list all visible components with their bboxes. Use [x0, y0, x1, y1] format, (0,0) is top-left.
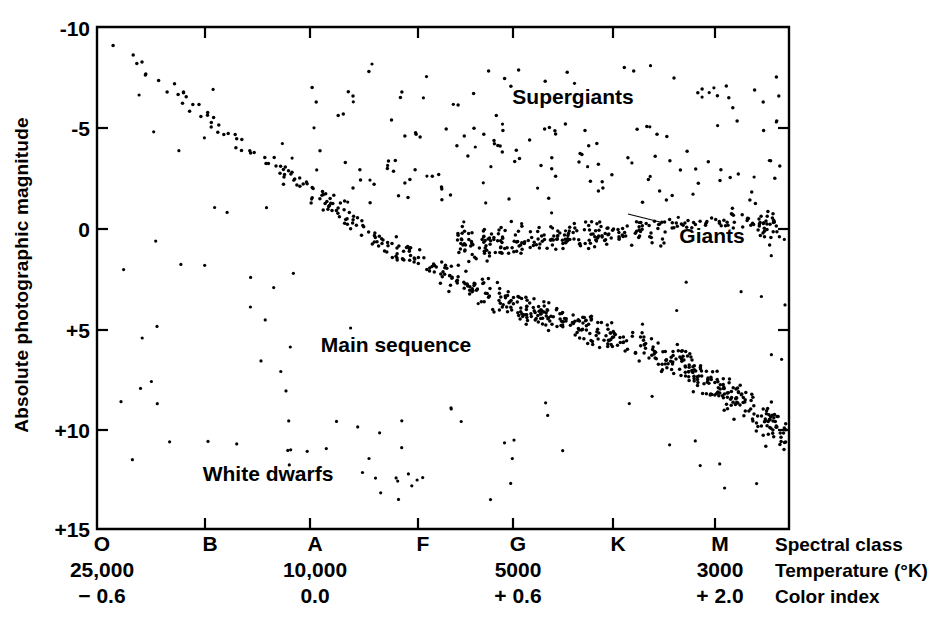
star-point [466, 154, 470, 158]
star-point [608, 331, 612, 335]
star-point [150, 380, 153, 383]
star-point [519, 306, 523, 310]
star-point [706, 376, 710, 380]
star-point [518, 317, 522, 321]
star-point [520, 297, 524, 301]
star-point [532, 297, 536, 301]
star-point [392, 170, 396, 174]
star-point [408, 258, 412, 262]
star-point [737, 390, 741, 394]
star-point [507, 197, 511, 201]
y-tick-label--10: -10 [60, 17, 90, 40]
star-point [485, 248, 489, 252]
star-point [641, 224, 645, 228]
star-point [685, 149, 689, 153]
star-point [578, 319, 582, 323]
right-axis-ticks [778, 128, 789, 430]
star-point [692, 374, 696, 378]
star-point [235, 442, 238, 445]
x-row-1-value-0: 25,000 [70, 558, 134, 581]
star-point [726, 407, 730, 411]
star-point [705, 392, 709, 396]
star-point [456, 275, 460, 279]
star-point [679, 168, 683, 172]
star-point [561, 449, 564, 452]
star-point [483, 252, 487, 256]
star-point [715, 369, 719, 373]
star-point [282, 168, 286, 172]
x-row-0-value-2: A [307, 532, 322, 555]
star-point [540, 234, 544, 238]
star-point [335, 420, 338, 423]
star-point [610, 173, 614, 177]
star-point [397, 244, 401, 248]
star-point [421, 476, 424, 479]
star-point [714, 218, 718, 222]
star-point [462, 220, 465, 223]
star-point [573, 222, 577, 226]
star-point [602, 339, 606, 343]
giants-leader-line [628, 214, 660, 222]
star-point [403, 181, 407, 185]
star-point [507, 251, 511, 255]
star-point [693, 364, 697, 368]
star-point [712, 86, 715, 89]
star-point [722, 377, 726, 381]
star-point [649, 64, 652, 67]
star-point [471, 243, 475, 247]
x-axis-ticks [205, 27, 715, 529]
star-point [782, 431, 786, 435]
star-point [751, 417, 755, 421]
star-point [684, 370, 688, 374]
star-point [772, 221, 776, 225]
star-point [519, 251, 523, 255]
star-point [433, 264, 437, 268]
star-point [744, 391, 748, 395]
star-point [539, 317, 543, 321]
star-point [173, 82, 177, 86]
star-point [373, 231, 377, 235]
star-point [587, 144, 591, 148]
star-point [272, 156, 276, 160]
star-point [473, 282, 477, 286]
star-point [661, 237, 665, 241]
star-point [509, 482, 512, 485]
star-point [727, 391, 731, 395]
x-row-2-value-4: + 0.6 [494, 584, 541, 607]
star-point [492, 139, 496, 143]
star-point [604, 334, 608, 338]
star-point [457, 264, 461, 268]
star-point [355, 223, 359, 227]
star-point [152, 130, 155, 133]
star-point [501, 129, 505, 133]
star-point [660, 370, 664, 374]
star-point [749, 224, 753, 228]
star-point [493, 142, 497, 146]
star-point [272, 286, 275, 289]
star-point [585, 328, 589, 332]
star-point [463, 134, 467, 138]
star-point [780, 358, 783, 361]
star-point [517, 230, 521, 234]
star-point [372, 183, 376, 187]
star-point [676, 343, 680, 347]
star-point [560, 312, 564, 316]
star-point [758, 224, 762, 228]
star-point [609, 236, 613, 240]
star-point [417, 262, 421, 266]
star-point [624, 234, 628, 238]
star-point [595, 142, 599, 146]
star-point [298, 184, 302, 188]
star-point [548, 126, 552, 130]
star-point [566, 237, 570, 241]
star-point [718, 462, 721, 465]
star-point [580, 153, 584, 157]
star-point [555, 237, 559, 241]
star-point [621, 233, 625, 237]
star-point [589, 232, 593, 236]
star-point [144, 73, 148, 77]
star-point [600, 180, 604, 184]
star-point [157, 79, 161, 83]
star-point [496, 144, 500, 148]
star-point [751, 396, 755, 400]
